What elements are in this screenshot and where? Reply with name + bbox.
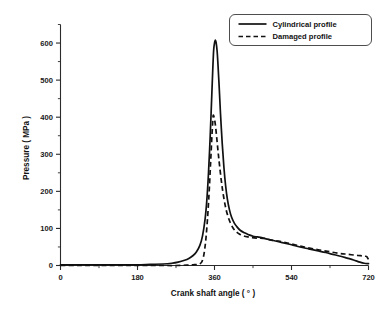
legend-label-cylindrical[interactable]: Cylindrical profile [273,20,337,29]
y-tick-label: 600 [40,39,53,48]
y-tick-label: 500 [40,76,53,85]
x-axis-title: Crank shaft angle ( ° ) [171,289,256,298]
y-tick-label: 200 [40,187,53,196]
y-tick-label: 300 [40,150,53,159]
chart-figure: 0100200300400500600 0180360540720 Cylind… [0,0,391,309]
x-tick-label: 0 [58,273,62,282]
x-tick-label: 360 [208,273,221,282]
x-tick-label: 180 [131,273,144,282]
pressure-vs-crank-angle-chart: 0100200300400500600 0180360540720 Cylind… [0,0,391,309]
y-tick-label: 100 [40,224,53,233]
chart-legend[interactable]: Cylindrical profileDamaged profile [230,15,372,46]
y-tick-label: 400 [40,113,53,122]
legend-label-damaged[interactable]: Damaged profile [273,32,333,41]
y-axis-title: Pressure ( MPa ) [22,116,31,180]
x-tick-label: 720 [362,273,375,282]
x-tick-label: 540 [285,273,298,282]
y-tick-label: 0 [49,261,53,270]
